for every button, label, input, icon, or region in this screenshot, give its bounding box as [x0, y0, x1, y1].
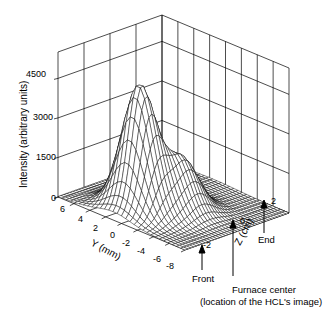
y-tick-0: 0 — [110, 230, 115, 240]
front-label: Front — [192, 273, 215, 284]
y-tick-neg8: -8 — [166, 261, 174, 271]
z-tick-0: 0 — [51, 193, 56, 203]
end-label: End — [258, 234, 275, 245]
y-tick-4: 4 — [78, 214, 83, 224]
z-tick-1500: 1500 — [36, 152, 56, 162]
y-tick-neg4: -4 — [137, 246, 145, 256]
z-tick-4500: 4500 — [26, 69, 46, 79]
x-tick-neg2: -2 — [203, 240, 211, 250]
furnace-center-sublabel: (location of the HCL's image) — [200, 296, 322, 307]
y-tick-6: 6 — [60, 204, 65, 214]
z-tick-3000: 3000 — [33, 112, 53, 122]
y-tick-2: 2 — [93, 223, 98, 233]
z-axis-label: Intensity (arbitrary units) — [18, 81, 29, 188]
x-tick-2: 2 — [271, 196, 276, 206]
y-tick-neg6: -6 — [153, 254, 161, 264]
surface-plot: 4500 3000 1500 0 Intensity (arbitrary un… — [0, 0, 332, 317]
furnace-center-label: Furnace center — [232, 284, 296, 295]
y-tick-neg2: -2 — [122, 238, 130, 248]
y-axis-label: Y (mm) — [89, 237, 123, 262]
